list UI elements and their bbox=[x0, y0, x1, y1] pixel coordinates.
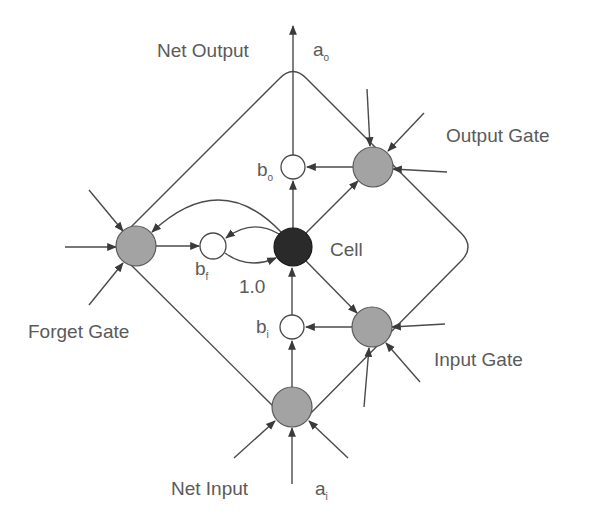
bf-symbol: b bbox=[195, 258, 206, 279]
cell-label: Cell bbox=[330, 239, 363, 260]
forgetgate-input-1 bbox=[89, 190, 123, 231]
bi-subscript: i bbox=[267, 329, 269, 340]
output-activation-subscript: o bbox=[324, 52, 330, 63]
netin-input-3 bbox=[309, 421, 348, 458]
input-activation-symbol: a bbox=[315, 478, 326, 499]
forget-gate-node bbox=[116, 226, 156, 266]
outgate-input-1 bbox=[367, 89, 370, 146]
output-gate-node bbox=[353, 147, 393, 187]
outgate-input-3 bbox=[393, 169, 447, 172]
input-gate-label: Input Gate bbox=[434, 349, 523, 370]
input-activation-subscript: i bbox=[326, 491, 328, 502]
ingate-input-1 bbox=[392, 324, 445, 327]
bi-label: bi bbox=[256, 316, 269, 340]
lstm-diagram: Net Output ao Output Gate Cell Forget Ga… bbox=[0, 0, 594, 522]
bf-subscript: f bbox=[206, 271, 209, 282]
output-activation-symbol: a bbox=[313, 39, 324, 60]
cell-to-bf-edge bbox=[226, 227, 279, 238]
bf-to-cell-edge bbox=[225, 253, 276, 263]
cell-node bbox=[274, 228, 312, 266]
bf-label: bf bbox=[195, 258, 209, 282]
bi-multiplier-node bbox=[280, 315, 304, 339]
cell-to-outgate-edge bbox=[306, 181, 358, 233]
bi-symbol: b bbox=[256, 316, 267, 337]
net-input-node bbox=[272, 387, 312, 427]
outgate-input-2 bbox=[388, 113, 424, 151]
bo-symbol: b bbox=[257, 159, 268, 180]
forget-gate-label: Forget Gate bbox=[28, 321, 129, 342]
forgetgate-input-3 bbox=[89, 263, 123, 305]
bo-multiplier-node bbox=[281, 155, 305, 179]
output-activation-label: ao bbox=[313, 39, 330, 63]
self-loop-weight-label: 1.0 bbox=[239, 276, 265, 297]
input-gate-node bbox=[352, 307, 392, 347]
bo-label: bo bbox=[257, 159, 274, 183]
net-output-label: Net Output bbox=[157, 40, 250, 61]
net-input-label: Net Input bbox=[171, 478, 249, 499]
input-activation-label: ai bbox=[315, 478, 328, 502]
cell-to-ingate-edge bbox=[306, 261, 357, 313]
netin-input-1 bbox=[234, 421, 275, 458]
bf-multiplier-node bbox=[200, 233, 226, 259]
ingate-input-2 bbox=[386, 343, 420, 382]
output-gate-label: Output Gate bbox=[446, 125, 550, 146]
bo-subscript: o bbox=[268, 172, 274, 183]
